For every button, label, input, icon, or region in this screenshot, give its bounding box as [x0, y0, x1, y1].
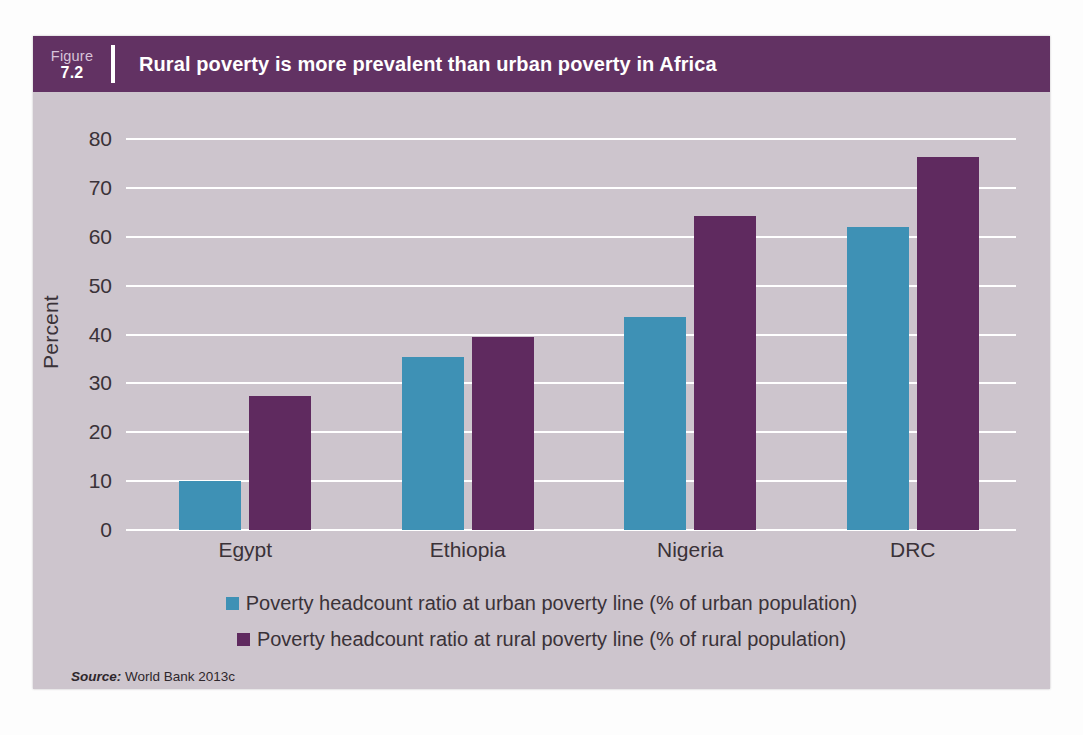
bar-group-nigeria [624, 139, 756, 530]
y-axis-tick-label: 10 [89, 469, 112, 493]
y-axis-tick-label: 60 [89, 225, 112, 249]
chart-plot-canvas: 01020304050607080 [126, 139, 1016, 530]
legend-item-urban: Poverty headcount ratio at urban poverty… [33, 585, 1050, 621]
bar-egypt-urban [179, 481, 241, 530]
legend-label-rural: Poverty headcount ratio at rural poverty… [257, 628, 846, 651]
bar-drc-rural [917, 157, 979, 530]
figure-label-word: Figure [51, 48, 93, 64]
legend-swatch-urban-icon [226, 597, 239, 610]
y-axis-tick-label: 30 [89, 371, 112, 395]
y-axis-tick-label: 40 [89, 323, 112, 347]
figure-card: Figure 7.2 Rural poverty is more prevale… [33, 36, 1050, 689]
y-axis-tick-label: 50 [89, 274, 112, 298]
bar-ethiopia-urban [402, 357, 464, 530]
y-axis-tick-label: 80 [89, 127, 112, 151]
bar-group-ethiopia [402, 139, 534, 530]
source-label: Source: [71, 669, 121, 684]
bars-layer [126, 139, 1016, 530]
figure-title: Rural poverty is more prevalent than urb… [115, 36, 717, 92]
page-background: Figure 7.2 Rural poverty is more prevale… [0, 0, 1083, 735]
legend-swatch-rural-icon [237, 633, 250, 646]
x-axis-tick-label-ethiopia: Ethiopia [430, 538, 506, 562]
x-axis-tick-label-drc: DRC [890, 538, 936, 562]
x-axis-tick-label-nigeria: Nigeria [657, 538, 724, 562]
x-axis-tick-label-egypt: Egypt [218, 538, 272, 562]
legend-label-urban: Poverty headcount ratio at urban poverty… [246, 592, 857, 615]
y-axis-tick-label: 70 [89, 176, 112, 200]
bar-nigeria-urban [624, 317, 686, 530]
bar-group-drc [847, 139, 979, 530]
bar-egypt-rural [249, 396, 311, 530]
bar-nigeria-rural [694, 216, 756, 530]
chart-legend: Poverty headcount ratio at urban poverty… [33, 585, 1050, 657]
plot-area: Percent 01020304050607080 EgyptEthiopiaN… [33, 92, 1050, 689]
source-text: World Bank 2013c [121, 669, 235, 684]
figure-header: Figure 7.2 Rural poverty is more prevale… [33, 36, 1050, 92]
figure-number: 7.2 [61, 64, 84, 82]
figure-number-block: Figure 7.2 [33, 36, 111, 92]
x-axis-labels: EgyptEthiopiaNigeriaDRC [126, 538, 1016, 572]
bar-group-egypt [179, 139, 311, 530]
source-note: Source: World Bank 2013c [71, 669, 235, 684]
legend-item-rural: Poverty headcount ratio at rural poverty… [33, 621, 1050, 657]
y-axis-tick-label: 0 [100, 518, 112, 542]
bar-drc-urban [847, 227, 909, 530]
y-axis-title: Percent [39, 252, 63, 412]
bar-ethiopia-rural [472, 337, 534, 530]
y-axis-tick-label: 20 [89, 420, 112, 444]
